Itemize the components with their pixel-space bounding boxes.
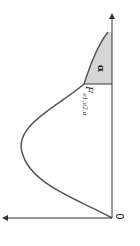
tail-area-label: α <box>96 65 107 73</box>
critical-value-label: Fν1,ν2,α <box>82 86 95 136</box>
tail-area-shading <box>84 32 112 84</box>
origin-label: 0 <box>114 213 125 219</box>
density-axis-arrow-icon <box>2 215 8 221</box>
critical-value-symbol: F <box>84 86 95 93</box>
f-axis-arrow-icon <box>109 13 115 19</box>
critical-value-subscript: ν1,ν2,α <box>82 93 89 116</box>
f-distribution-diagram <box>0 0 140 246</box>
